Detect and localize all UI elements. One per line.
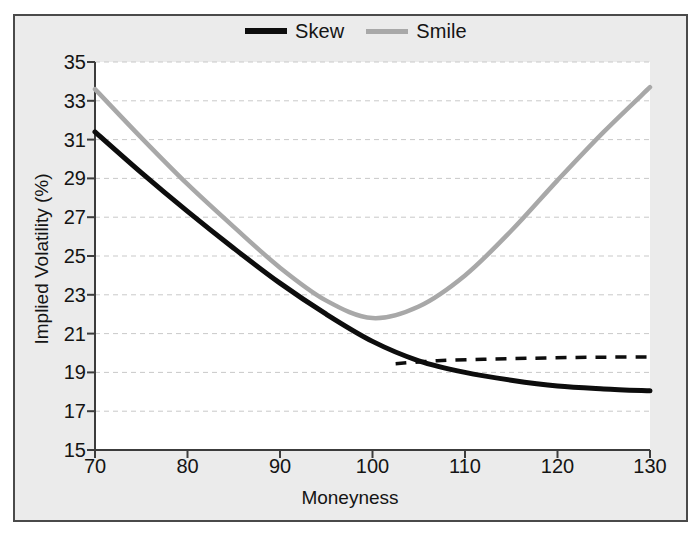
x-tick-label-110: 110 bbox=[435, 456, 495, 476]
x-axis-tick-labels: 708090100110120130 bbox=[0, 456, 700, 484]
chart-screenshot: 1517192123252729313335 70809010011012013… bbox=[0, 0, 700, 546]
x-tick-label-120: 120 bbox=[528, 456, 588, 476]
y-tick-label-35: 35 bbox=[44, 52, 86, 72]
y-tick-label-17: 17 bbox=[44, 401, 86, 421]
legend-label-smile: Smile bbox=[416, 21, 467, 41]
x-axis-title: Moneyness bbox=[0, 487, 700, 509]
y-axis-title: Implied Volatility (%) bbox=[31, 129, 53, 389]
x-tick-label-90: 90 bbox=[250, 456, 310, 476]
x-tick-label-100: 100 bbox=[343, 456, 403, 476]
chart-legend: Skew Smile bbox=[245, 19, 467, 43]
y-axis-ticks bbox=[87, 62, 95, 450]
legend-item-smile: Smile bbox=[366, 21, 467, 41]
legend-swatch-smile-icon bbox=[366, 29, 408, 34]
legend-label-skew: Skew bbox=[295, 21, 344, 41]
legend-swatch-skew-icon bbox=[245, 28, 287, 34]
x-tick-label-70: 70 bbox=[65, 456, 125, 476]
legend-item-skew: Skew bbox=[245, 21, 344, 41]
x-tick-label-130: 130 bbox=[620, 456, 680, 476]
y-tick-label-33: 33 bbox=[44, 91, 86, 111]
x-tick-label-80: 80 bbox=[158, 456, 218, 476]
